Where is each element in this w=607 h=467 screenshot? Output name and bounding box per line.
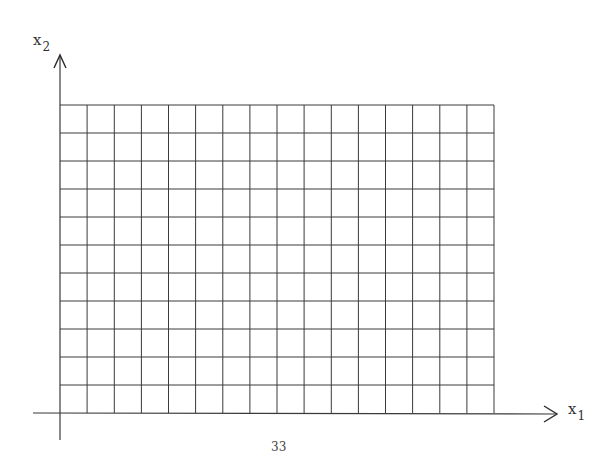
x-axis-label-main: x (568, 400, 576, 418)
y-axis-label: x2 (33, 33, 49, 48)
x-axis-line (33, 413, 556, 414)
y-axis-label-subscript: 2 (42, 40, 50, 54)
x-axis-label: x1 (568, 402, 584, 417)
x-axis-label-subscript: 1 (577, 409, 585, 423)
y-axis-label-main: x (33, 31, 41, 49)
coordinate-grid-diagram (0, 0, 607, 467)
grid-lines (60, 105, 494, 413)
page-number: 33 (271, 440, 286, 454)
